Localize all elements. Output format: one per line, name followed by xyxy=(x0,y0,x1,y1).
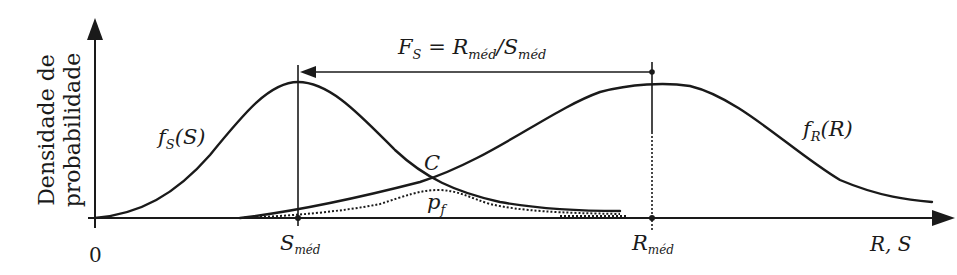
y-axis-label-line2: probabilidade xyxy=(60,53,85,208)
fs-subscript: S xyxy=(413,47,422,62)
s-symbol: S xyxy=(504,35,518,59)
stress-arg: (S) xyxy=(175,125,206,149)
r-subscript: méd xyxy=(468,47,496,62)
intersection-label: C xyxy=(424,151,440,175)
s-med-sub: méd xyxy=(294,243,320,257)
y-axis-label-line1: Densidade de xyxy=(34,54,59,206)
y-axis-label: Densidade de probabilidade xyxy=(34,53,85,208)
s-med-main: S xyxy=(280,231,294,255)
x-axis-label: R, S xyxy=(869,232,911,256)
r-med-sub: méd xyxy=(648,243,674,257)
resistance-sub: R xyxy=(810,129,821,144)
r-med-point xyxy=(649,215,655,221)
safety-factor-formula: FS = Rméd/Sméd xyxy=(397,35,546,62)
stress-curve-label: fS(S) xyxy=(156,125,205,152)
reliability-diagram: Densidade de probabilidade 0 R, S FS = R… xyxy=(0,0,957,275)
s-subscript: méd xyxy=(518,47,546,62)
resistance-curve xyxy=(240,84,932,218)
pf-main: p xyxy=(427,190,440,214)
r-symbol: R xyxy=(451,35,468,59)
pf-sub: f xyxy=(439,202,447,217)
resistance-arg: (R) xyxy=(821,117,853,141)
r-med-label: Rméd xyxy=(631,231,674,257)
x-axis xyxy=(88,210,955,226)
equals-sign: = xyxy=(421,35,452,59)
r-med-main: R xyxy=(631,231,648,255)
fs-symbol: F xyxy=(397,35,414,59)
y-axis-arrow-icon xyxy=(87,18,103,40)
origin-label: 0 xyxy=(89,243,102,267)
s-med-label: Sméd xyxy=(280,231,321,257)
safety-factor-arrow xyxy=(300,66,652,78)
s-med-point xyxy=(295,215,301,221)
stress-sub: S xyxy=(166,137,175,152)
resistance-curve-label: fR(R) xyxy=(801,117,853,144)
arrow-left-icon xyxy=(300,66,316,78)
x-axis-arrow-icon xyxy=(932,210,955,226)
failure-probability-label: pf xyxy=(427,190,447,217)
y-axis xyxy=(87,18,103,228)
